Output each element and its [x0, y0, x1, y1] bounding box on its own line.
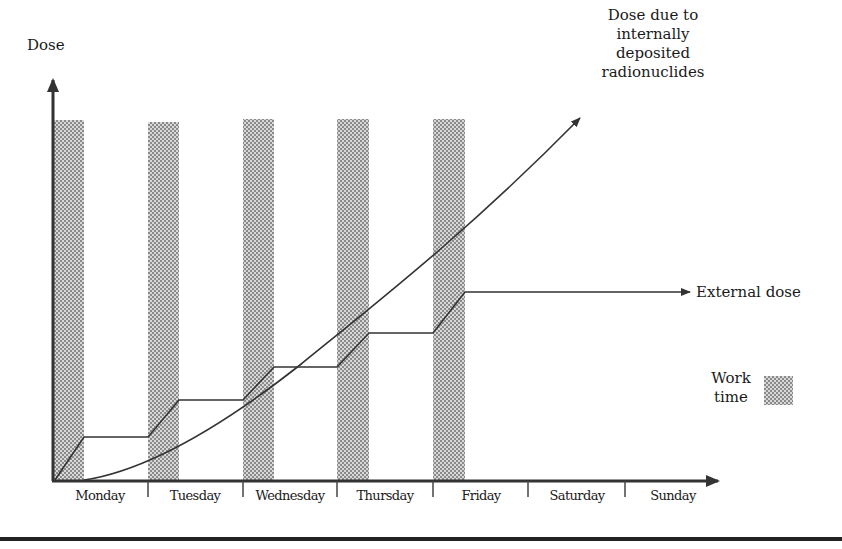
- legend-line-2: time: [706, 388, 756, 407]
- internal-label-line-3: deposited: [588, 44, 718, 63]
- internal-dose-label: Dose due to internally deposited radionu…: [588, 6, 718, 82]
- day-label-saturday: Saturday: [532, 488, 622, 503]
- day-label-friday: Friday: [436, 488, 526, 503]
- bottom-divider: [0, 537, 842, 541]
- day-label-monday: Monday: [55, 488, 145, 503]
- y-axis-label: Dose: [27, 36, 65, 55]
- internal-label-line-2: internally: [588, 25, 718, 44]
- work-time-bars: [53, 119, 465, 480]
- external-dose-label: External dose: [696, 283, 801, 302]
- work-time-legend-label: Work time: [706, 369, 756, 407]
- day-label-thursday: Thursday: [340, 488, 430, 503]
- dose-chart: [0, 0, 842, 549]
- day-label-tuesday: Tuesday: [150, 488, 240, 503]
- legend-line-1: Work: [706, 369, 756, 388]
- day-label-sunday: Sunday: [628, 488, 718, 503]
- internal-label-line-4: radionuclides: [588, 63, 718, 82]
- day-label-wednesday: Wednesday: [245, 488, 335, 503]
- work-time-legend-swatch: [764, 376, 793, 405]
- internal-label-line-1: Dose due to: [588, 6, 718, 25]
